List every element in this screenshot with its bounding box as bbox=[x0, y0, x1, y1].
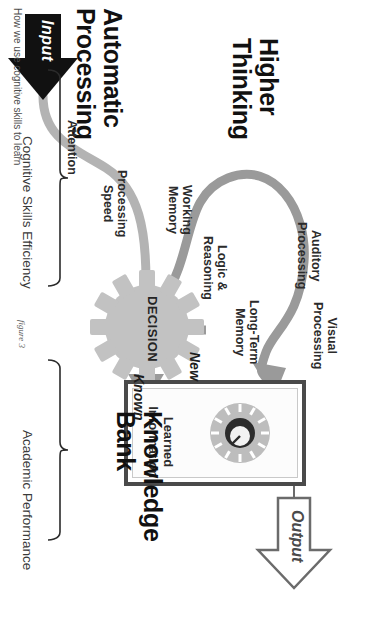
label-auditory-processing: Auditory Processing bbox=[295, 222, 322, 289]
page-caption: How we use cognitive skills to learn bbox=[11, 8, 22, 165]
label-processing-speed: Processing Speed bbox=[101, 170, 128, 237]
label-known: Known bbox=[131, 374, 146, 421]
heading-knowledge-bank: Knowledge Bank bbox=[112, 411, 166, 542]
label-working-memory: Working Memory bbox=[166, 185, 193, 235]
heading-higher-thinking: Higher Thinking bbox=[228, 38, 282, 140]
cognitive-skills-brace bbox=[48, 70, 68, 286]
label-attention: Attention bbox=[65, 120, 79, 175]
figure-canvas: Input bbox=[0, 0, 378, 622]
label-logic-reasoning: Logic & Reasoning bbox=[201, 236, 228, 300]
heading-automatic-processing: Automatic Processing bbox=[72, 8, 126, 140]
label-academic-performance: Academic Performance bbox=[19, 430, 34, 570]
figure-number: figure 3 bbox=[16, 320, 26, 348]
label-new: New bbox=[187, 352, 202, 381]
diagram-stage: Input bbox=[0, 0, 378, 622]
label-visual-processing: Visual Processing bbox=[311, 302, 338, 369]
academic-performance-brace bbox=[48, 360, 68, 540]
label-long-term-memory: Long-Term Memory bbox=[233, 300, 260, 364]
